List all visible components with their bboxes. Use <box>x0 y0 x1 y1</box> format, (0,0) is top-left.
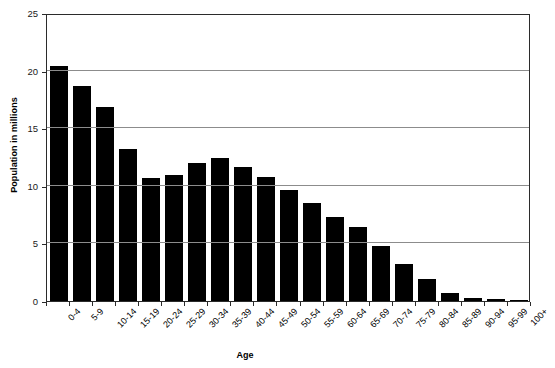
x-tick-mark <box>276 302 277 306</box>
bar <box>257 177 275 301</box>
x-tick-label: 50-54 <box>300 307 323 330</box>
x-tick-label: 75-79 <box>415 307 438 330</box>
plot-area <box>46 14 530 302</box>
gridline-5 <box>47 242 529 243</box>
y-tick-label: 5 <box>2 239 38 249</box>
y-tick-label: 25 <box>2 9 38 19</box>
x-tick-label: 90-94 <box>484 307 507 330</box>
x-tick-label: 70-74 <box>392 307 415 330</box>
gridline-20 <box>47 70 529 71</box>
x-tick-label: 85-89 <box>461 307 484 330</box>
x-tick-label: 95-99 <box>507 307 530 330</box>
x-tick-mark <box>115 302 116 306</box>
x-axis-title: Age <box>200 350 290 360</box>
bar <box>96 107 114 301</box>
bar <box>188 163 206 301</box>
x-tick-mark <box>207 302 208 306</box>
x-tick-label: 15-19 <box>138 307 161 330</box>
bar <box>119 149 137 301</box>
x-tick-mark <box>138 302 139 306</box>
x-tick-mark <box>346 302 347 306</box>
y-tick-mark <box>42 72 46 73</box>
y-tick-mark <box>42 187 46 188</box>
bar <box>418 279 436 301</box>
x-tick-mark <box>438 302 439 306</box>
bar <box>441 293 459 301</box>
bar <box>280 190 298 301</box>
x-tick-label: 10-14 <box>115 307 138 330</box>
x-tick-label: 100+ <box>529 307 550 328</box>
bar <box>349 227 367 301</box>
x-tick-label: 65-69 <box>369 307 392 330</box>
bar <box>487 299 505 301</box>
bar <box>165 175 183 301</box>
bar <box>142 178 160 301</box>
x-tick-label: 60-64 <box>346 307 369 330</box>
x-tick-mark <box>323 302 324 306</box>
gridline-10 <box>47 185 529 186</box>
bar <box>73 86 91 301</box>
bar <box>326 217 344 301</box>
y-tick-label: 15 <box>2 124 38 134</box>
x-tick-mark <box>46 302 47 306</box>
x-tick-label: 35-39 <box>231 307 254 330</box>
x-tick-mark <box>69 302 70 306</box>
x-tick-mark <box>507 302 508 306</box>
x-tick-mark <box>300 302 301 306</box>
x-tick-mark <box>484 302 485 306</box>
bar <box>395 264 413 301</box>
x-tick-label: 25-29 <box>184 307 207 330</box>
x-tick-label: 5-9 <box>89 307 105 323</box>
x-tick-label: 40-44 <box>254 307 277 330</box>
x-tick-mark <box>392 302 393 306</box>
y-tick-label: 20 <box>2 67 38 77</box>
x-tick-label: 20-24 <box>161 307 184 330</box>
bar <box>510 300 528 301</box>
y-tick-label: 0 <box>2 297 38 307</box>
x-tick-label: 0-4 <box>66 307 82 323</box>
x-tick-mark <box>461 302 462 306</box>
bar <box>303 203 321 301</box>
x-tick-label: 45-49 <box>277 307 300 330</box>
x-tick-mark <box>92 302 93 306</box>
x-tick-mark <box>161 302 162 306</box>
x-tick-mark <box>230 302 231 306</box>
x-tick-mark <box>415 302 416 306</box>
x-tick-mark <box>369 302 370 306</box>
x-tick-mark <box>184 302 185 306</box>
y-tick-mark <box>42 244 46 245</box>
x-tick-label: 30-34 <box>208 307 231 330</box>
population-by-age-bar-chart: Population in millions 0510152025 0-45-9… <box>0 0 555 368</box>
bar <box>234 167 252 301</box>
y-tick-mark <box>42 129 46 130</box>
x-tick-mark <box>253 302 254 306</box>
bar <box>464 298 482 301</box>
bar <box>372 246 390 301</box>
x-tick-label: 80-84 <box>438 307 461 330</box>
gridline-15 <box>47 127 529 128</box>
bars-layer <box>47 15 529 301</box>
y-axis-title: Population in millions <box>9 65 19 225</box>
x-tick-label: 55-59 <box>323 307 346 330</box>
y-tick-mark <box>42 14 46 15</box>
bar <box>211 158 229 301</box>
x-tick-mark <box>530 302 531 306</box>
y-tick-label: 10 <box>2 182 38 192</box>
bar <box>50 66 68 301</box>
